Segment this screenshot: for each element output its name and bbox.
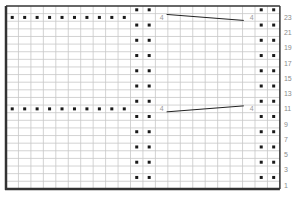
purl-dot xyxy=(135,115,138,118)
marker-label-left: 4 xyxy=(160,14,164,21)
purl-dot xyxy=(48,107,51,110)
purl-dot xyxy=(272,130,275,133)
purl-dot xyxy=(148,24,151,27)
row-number: 23 xyxy=(284,14,292,21)
purl-dot xyxy=(260,8,263,11)
purl-dot xyxy=(11,107,14,110)
purl-dot xyxy=(260,161,263,164)
purl-dot xyxy=(272,176,275,179)
purl-dot xyxy=(260,69,263,72)
purl-dot xyxy=(272,39,275,42)
row-number: 9 xyxy=(284,121,288,128)
purl-dot xyxy=(148,130,151,133)
purl-dot xyxy=(272,54,275,57)
row-number: 5 xyxy=(284,151,288,158)
purl-dot xyxy=(260,130,263,133)
purl-dot xyxy=(135,8,138,11)
purl-dot xyxy=(272,85,275,88)
purl-dot xyxy=(23,107,26,110)
purl-dot xyxy=(148,176,151,179)
purl-dot xyxy=(260,145,263,148)
row-number: 15 xyxy=(284,75,292,82)
row-number: 1 xyxy=(284,182,288,189)
purl-dot xyxy=(110,16,113,19)
purl-dot xyxy=(135,161,138,164)
purl-dot xyxy=(272,115,275,118)
purl-dot xyxy=(110,107,113,110)
purl-dot xyxy=(272,161,275,164)
purl-dot xyxy=(260,24,263,27)
row-number: 19 xyxy=(284,44,292,51)
marker-label-right: 4 xyxy=(250,105,254,112)
purl-dot xyxy=(123,107,126,110)
purl-dot xyxy=(135,100,138,103)
purl-dot xyxy=(148,85,151,88)
purl-dot xyxy=(73,107,76,110)
purl-dot xyxy=(260,100,263,103)
row-number: 17 xyxy=(284,60,292,67)
purl-dot xyxy=(48,16,51,19)
purl-dot xyxy=(148,69,151,72)
purl-dot xyxy=(272,69,275,72)
purl-dot xyxy=(135,145,138,148)
purl-dot xyxy=(260,54,263,57)
purl-dot xyxy=(148,8,151,11)
purl-dot xyxy=(61,107,64,110)
purl-dot xyxy=(260,115,263,118)
row-number-labels: 1357911131517192123 xyxy=(284,14,292,189)
knitting-chart: 4444 1357911131517192123 xyxy=(0,0,300,200)
purl-dot xyxy=(260,39,263,42)
purl-dot xyxy=(135,54,138,57)
purl-dot xyxy=(85,107,88,110)
purl-dot xyxy=(36,107,39,110)
purl-dot xyxy=(135,24,138,27)
purl-dot xyxy=(135,176,138,179)
purl-dot xyxy=(135,39,138,42)
purl-dot xyxy=(23,16,26,19)
purl-dot xyxy=(272,145,275,148)
purl-dot xyxy=(135,130,138,133)
purl-dot xyxy=(260,176,263,179)
purl-dot xyxy=(85,16,88,19)
purl-dot xyxy=(11,16,14,19)
purl-dot xyxy=(135,69,138,72)
row-number: 7 xyxy=(284,136,288,143)
purl-dot xyxy=(123,16,126,19)
grid-lines xyxy=(6,6,280,189)
purl-dot xyxy=(135,85,138,88)
purl-dot xyxy=(272,8,275,11)
purl-dot xyxy=(148,100,151,103)
row-number: 3 xyxy=(284,166,288,173)
purl-dot xyxy=(272,100,275,103)
row-number: 21 xyxy=(284,29,292,36)
purl-dot xyxy=(148,54,151,57)
marker-label-left: 4 xyxy=(160,105,164,112)
row-number: 13 xyxy=(284,90,292,97)
purl-dot xyxy=(148,39,151,42)
row-number: 11 xyxy=(284,105,291,112)
marker-label-right: 4 xyxy=(250,14,254,21)
purl-dot xyxy=(98,107,101,110)
purl-dot xyxy=(98,16,101,19)
purl-dot xyxy=(148,161,151,164)
purl-dot xyxy=(260,85,263,88)
purl-dot xyxy=(148,145,151,148)
purl-dot xyxy=(148,115,151,118)
purl-dot xyxy=(272,24,275,27)
purl-dot xyxy=(36,16,39,19)
purl-dot xyxy=(61,16,64,19)
purl-dot xyxy=(73,16,76,19)
chart-border xyxy=(5,6,280,190)
